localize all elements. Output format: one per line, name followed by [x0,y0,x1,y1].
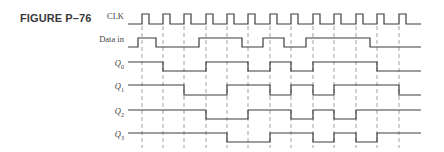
timing-diagram [0,0,444,152]
clk-waveform [128,14,421,24]
q3-waveform [128,133,421,142]
q0-waveform [128,62,421,71]
